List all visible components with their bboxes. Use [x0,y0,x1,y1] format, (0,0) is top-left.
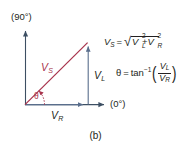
eq2-lhs: θ [116,67,121,78]
equation-phase: θ = tan−1(VLVR) [116,62,178,84]
eq1-term2-symbol: V [148,36,154,47]
eq1-term1: VL22 [132,37,142,47]
eq1-radicand: VL22+VR22 [131,36,159,47]
vector-label-vr-subscript: R [58,115,63,122]
eq2-exponent: −1 [144,66,151,73]
eq1-term2-exponent: 2 [158,33,162,40]
vector-label-vr-symbol: V [51,109,58,121]
radical-sign-icon: √ [124,35,131,48]
eq2-denominator: VR [158,74,171,85]
vector-label-vl-subscript: L [101,75,105,82]
eq2-numerator-subscript: L [166,64,170,71]
eq1-equals: = [117,36,123,47]
vector-label-vl: VL [94,70,105,82]
eq1-lhs-subscript: S [110,41,114,48]
eq2-fraction: VLVR [158,62,171,84]
angle-theta-label: θ [34,92,39,101]
eq2-numerator: VL [158,62,171,74]
vector-label-vl-symbol: V [94,69,101,81]
horizontal-axis-label: (0°) [110,99,125,109]
eq1-term1-symbol: V [132,36,138,47]
phasor-diagram-figure: (90°) (0°) VS VL VR θ VS = √VL22+VR22 θ … [0,0,191,153]
vector-label-vs-subscript: S [48,67,53,74]
vector-label-vr: VR [51,110,63,122]
eq1-radical: √VL22+VR22 [124,36,159,47]
eq2-denominator-subscript: R [165,76,170,83]
vector-label-vs: VS [41,62,53,74]
angle-theta-arc [39,91,45,105]
eq1-term1-exponent: 2 [142,33,146,40]
eq2-equals: = [123,67,129,78]
eq1-term2-subscript: R [158,43,163,50]
eq1-term2: VR22 [148,37,158,47]
paren-open-icon: ( [152,66,156,80]
paren-close-icon: ) [172,66,176,80]
vertical-axis-label: (90°) [11,12,32,22]
figure-caption: (b) [0,130,191,141]
eq1-term1-subscript: L [142,43,146,50]
vector-label-vs-symbol: V [41,61,48,73]
equation-magnitude: VS = √VL22+VR22 [104,36,159,48]
eq2-function: tan [131,67,144,78]
